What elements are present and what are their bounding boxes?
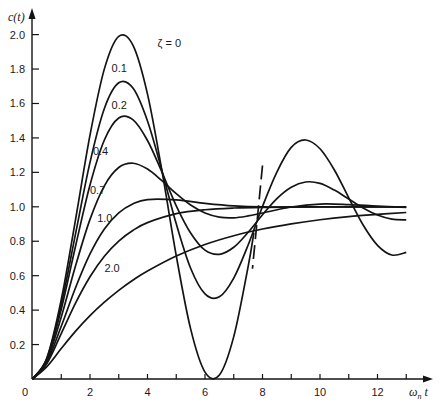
curve-zeta-2 <box>33 116 407 379</box>
y-tick-label: 1.4 <box>10 132 25 144</box>
y-tick-label: 0.4 <box>10 304 25 316</box>
curve-label: 0.2 <box>112 99 127 111</box>
y-tick-label: 0.2 <box>10 339 25 351</box>
y-tick-label: 0.6 <box>10 270 25 282</box>
curve-zeta-3 <box>33 163 407 379</box>
response-curves <box>33 35 407 379</box>
step-response-chart: 24681012 0.20.40.60.81.01.21.41.61.82.0 … <box>0 0 440 404</box>
x-tick-label: 6 <box>202 386 208 398</box>
x-tick-label: 12 <box>371 386 383 398</box>
x-axis-arrow-icon <box>423 376 433 383</box>
y-tick-label: 0.8 <box>10 235 25 247</box>
y-tick-label: 1.6 <box>10 97 25 109</box>
y-axis-title: c(t) <box>8 10 25 24</box>
curve-label: 1.0 <box>97 212 112 224</box>
x-tick-label: 8 <box>259 386 265 398</box>
origin-label: 0 <box>22 386 28 398</box>
curve-zeta-1 <box>33 81 407 379</box>
curve-label: 0.7 <box>90 184 105 196</box>
curve-zeta-5 <box>33 207 407 379</box>
x-tick-label: 2 <box>87 386 93 398</box>
curve-label: ζ = 0 <box>158 37 182 49</box>
curve-zeta-4 <box>33 199 407 379</box>
y-tick-label: 1.2 <box>10 166 25 178</box>
x-tick-label: 4 <box>144 386 150 398</box>
x-axis-title: ωn t <box>409 385 428 401</box>
y-tick-label: 1.0 <box>10 201 25 213</box>
y-ticks: 0.20.40.60.81.01.21.41.61.82.0 <box>10 29 39 351</box>
y-axis-arrow-icon <box>29 8 36 19</box>
curve-label: 0.4 <box>93 145 108 157</box>
x-ticks: 24681012 <box>61 374 406 398</box>
curve-label: 2.0 <box>104 262 119 274</box>
x-tick-label: 10 <box>314 386 326 398</box>
curve-zeta-6 <box>33 212 407 379</box>
y-tick-label: 1.8 <box>10 63 25 75</box>
y-tick-label: 2.0 <box>10 29 25 41</box>
curve-label: 0.1 <box>112 62 127 74</box>
curve-zeta-0 <box>33 35 254 379</box>
